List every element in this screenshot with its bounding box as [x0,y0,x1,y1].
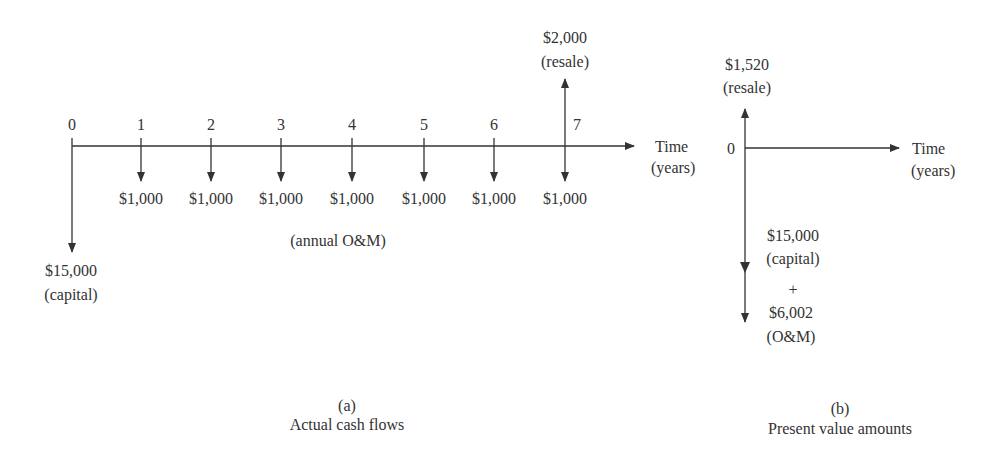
panel-a-time-axis [72,138,634,146]
panel-b-axis-label-years: (years) [911,162,955,180]
om-amount-year-7: $1,000 [543,190,587,208]
panel-b-origin-tick: 0 [727,140,735,158]
tick-6: 6 [490,116,498,134]
pv-resale-label: (resale) [723,79,771,97]
capital-label: (capital) [44,286,97,304]
panel-b-axis-label-time: Time [912,140,945,158]
om-amount-year-3: $1,000 [259,190,303,208]
pv-capital-label: (capital) [766,250,819,268]
pv-plus-sign: + [788,281,797,299]
om-amount-year-2: $1,000 [189,190,233,208]
panel-a-caption-letter: (a) [338,397,356,415]
om-amount-year-4: $1,000 [330,190,374,208]
pv-om-label: (O&M) [767,328,816,346]
pv-om-amount: $6,002 [769,304,813,322]
tick-1: 1 [137,116,145,134]
panel-b-caption-letter: (b) [831,400,850,418]
om-amount-year-5: $1,000 [402,190,446,208]
annual-om-label: (annual O&M) [290,232,386,250]
capital-amount: $15,000 [45,262,97,280]
om-amount-year-6: $1,000 [472,190,516,208]
tick-3: 3 [277,116,285,134]
tick-2: 2 [207,116,215,134]
cash-flow-diagram-svg [0,0,994,458]
tick-5: 5 [420,116,428,134]
panel-a-axis-label-years: (years) [651,159,695,177]
resale-label: (resale) [541,53,589,71]
tick-4: 4 [348,116,356,134]
panel-b-caption-title: Present value amounts [768,420,912,438]
annual-om-arrows [141,138,565,181]
pv-resale-amount: $1,520 [725,56,769,74]
pv-capital-amount: $15,000 [767,227,819,245]
tick-7: 7 [573,116,581,134]
pv-capital-arrowhead [740,262,750,273]
panel-a-axis-label-time: Time [655,138,688,156]
panel-a-caption-title: Actual cash flows [290,416,405,434]
tick-0: 0 [68,116,76,134]
om-amount-year-1: $1,000 [119,190,163,208]
resale-amount: $2,000 [543,29,587,47]
